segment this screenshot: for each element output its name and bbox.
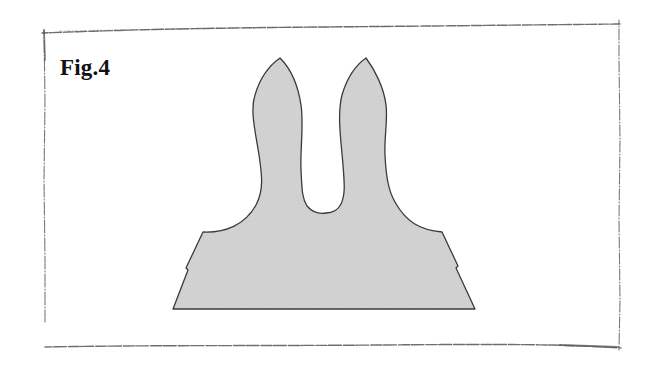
frame-top-edge bbox=[42, 24, 620, 33]
figure-panel: Fig.4 bbox=[0, 0, 665, 365]
figure-label: Fig.4 bbox=[60, 55, 110, 81]
figure-shape bbox=[173, 58, 475, 309]
frame-right-edge bbox=[619, 20, 620, 350]
frame-bottom-edge bbox=[45, 344, 621, 348]
frame-left-edge bbox=[44, 30, 45, 322]
